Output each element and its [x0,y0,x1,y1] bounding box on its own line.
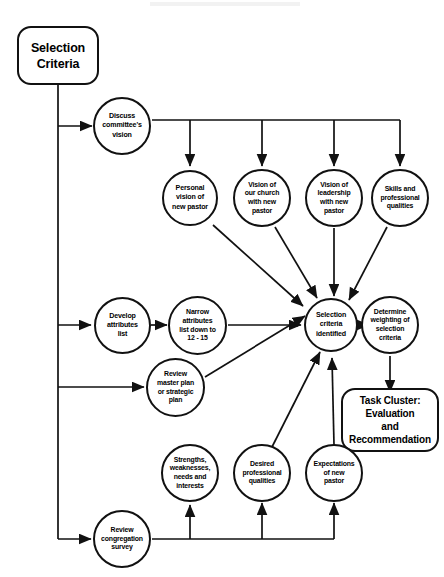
scan-artifact-top [150,2,300,6]
selection-criteria-box[interactable]: Selection Criteria [17,26,99,85]
connector-layer [0,0,444,577]
node-narrow-attributes[interactable]: Narrow attributes list down to 12 - 15 [168,296,227,355]
node-vision-church-label: Vision of our church with new pastor [245,181,280,216]
node-desired-qualities-label: Desired professional qualities [242,460,281,486]
task-cluster-box-label: Task Cluster: Evaluation and Recommendat… [349,394,431,447]
node-personal-vision-label: Personal vision of new pastor [172,184,208,212]
node-expectations-pastor-label: Expectations of new pastor [313,460,354,486]
edge-expectations-to-center [332,358,334,445]
flowchart-canvas: Selection Criteria Discuss committee's v… [0,0,444,577]
node-skills-qualities-label: Skills and professional qualities [380,185,419,211]
node-determine-weighting-label: Determine weighting of selection criteri… [371,308,410,343]
edge-personal-vision-to-center [213,225,303,306]
node-review-master-plan[interactable]: Review master plan or strategic plan [146,358,205,417]
node-vision-leadership[interactable]: Vision of leadership with new pastor [305,169,363,227]
node-selection-identified[interactable]: Selection criteria identified [304,298,358,352]
node-vision-church[interactable]: Vision of our church with new pastor [233,169,291,227]
node-develop-attributes-label: Develop attributes list [107,312,138,340]
node-review-survey-label: Review congregation survey [101,526,143,552]
node-selection-identified-label: Selection criteria identified [316,311,346,339]
edge-desired-qualities-to-center [272,352,320,447]
node-develop-attributes[interactable]: Develop attributes list [94,297,151,354]
node-personal-vision[interactable]: Personal vision of new pastor [162,170,218,226]
node-skills-qualities[interactable]: Skills and professional qualities [371,169,429,227]
node-strengths-weaknesses-label: Strengths, weaknesses, needs and interes… [170,456,211,491]
node-strengths-weaknesses[interactable]: Strengths, weaknesses, needs and interes… [161,444,219,502]
task-cluster-box[interactable]: Task Cluster: Evaluation and Recommendat… [341,388,439,452]
edge-skills-qualities-to-center [349,227,387,300]
node-desired-qualities[interactable]: Desired professional qualities [233,444,291,502]
node-discuss-vision-label: Discuss committee's vision [102,112,141,140]
node-discuss-vision[interactable]: Discuss committee's vision [93,97,151,155]
node-determine-weighting[interactable]: Determine weighting of selection criteri… [361,296,419,354]
node-review-survey[interactable]: Review congregation survey [93,510,151,568]
node-narrow-attributes-label: Narrow attributes list down to 12 - 15 [179,308,215,343]
selection-criteria-box-label: Selection Criteria [31,40,85,72]
node-expectations-pastor[interactable]: Expectations of new pastor [305,444,363,502]
node-vision-leadership-label: Vision of leadership with new pastor [318,181,351,216]
node-review-master-plan-label: Review master plan or strategic plan [157,370,194,405]
